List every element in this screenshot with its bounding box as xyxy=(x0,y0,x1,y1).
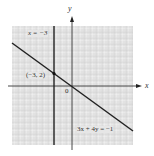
x-axis-arrow-icon xyxy=(136,84,142,88)
point-label: (−3, 2) xyxy=(26,72,45,79)
y-axis-label: y xyxy=(68,5,72,13)
y-axis-arrow-icon xyxy=(70,16,74,22)
point-neg3-2 xyxy=(52,72,55,75)
origin-label: 0 xyxy=(65,88,69,95)
diagonal-line-label: 3x + 4y = −1 xyxy=(77,126,113,133)
vertical-line-label: x = −3 xyxy=(28,30,48,37)
x-axis-label: x xyxy=(145,82,149,90)
